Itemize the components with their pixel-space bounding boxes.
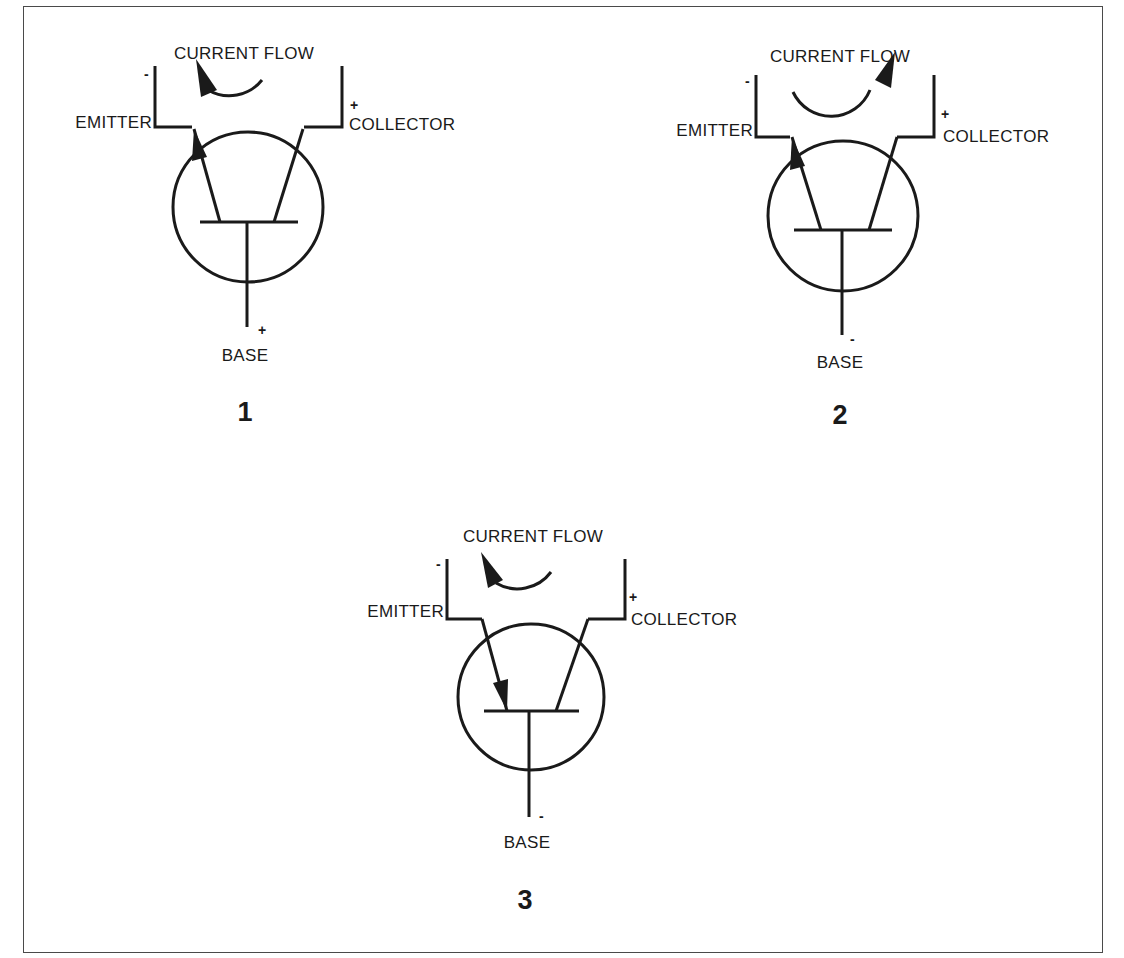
emitter-lead bbox=[756, 75, 790, 137]
base-polarity: - bbox=[850, 331, 855, 347]
collector-label: COLLECTOR bbox=[943, 127, 1049, 146]
collector-lead bbox=[304, 66, 342, 127]
emitter-label: EMITTER bbox=[676, 121, 753, 140]
base-polarity: + bbox=[258, 322, 266, 338]
base-label: BASE bbox=[222, 346, 269, 365]
transistor-3: CURRENT FLOW EMITTER - COLLECTOR + - BAS… bbox=[367, 527, 737, 915]
current-flow-arc bbox=[793, 90, 870, 116]
collector-polarity: + bbox=[350, 97, 358, 113]
transistor-body-circle bbox=[458, 624, 604, 770]
current-flow-label: CURRENT FLOW bbox=[463, 527, 603, 546]
emitter-polarity: - bbox=[144, 66, 149, 82]
emitter-arrow-icon bbox=[493, 679, 508, 711]
collector-label: COLLECTOR bbox=[349, 115, 455, 134]
collector-polarity: + bbox=[941, 106, 949, 122]
collector-label: COLLECTOR bbox=[631, 610, 737, 629]
emitter-label: EMITTER bbox=[367, 602, 444, 621]
figure-number-2: 2 bbox=[832, 400, 847, 430]
emitter-polarity: - bbox=[745, 73, 750, 89]
transistor-diagram: CURRENT FLOW EMITTER - COLLECTOR + + BAS… bbox=[0, 0, 1124, 958]
current-flow-arc bbox=[208, 80, 262, 96]
base-polarity: - bbox=[539, 808, 544, 824]
transistor-2: CURRENT FLOW EMITTER - COLLECTOR + - BAS… bbox=[676, 47, 1049, 430]
emitter-polarity: - bbox=[436, 556, 441, 572]
current-flow-arc bbox=[496, 572, 551, 589]
current-flow-arrowhead-icon bbox=[481, 552, 503, 588]
emitter-lead bbox=[155, 66, 192, 127]
base-label: BASE bbox=[504, 833, 551, 852]
current-flow-label: CURRENT FLOW bbox=[174, 44, 314, 63]
transistor-1: CURRENT FLOW EMITTER - COLLECTOR + + BAS… bbox=[75, 44, 455, 427]
figure-number-3: 3 bbox=[517, 885, 532, 915]
emitter-lead bbox=[447, 559, 482, 619]
collector-line bbox=[556, 619, 588, 711]
emitter-label: EMITTER bbox=[75, 113, 152, 132]
base-label: BASE bbox=[817, 353, 864, 372]
collector-lead bbox=[897, 75, 934, 137]
collector-polarity: + bbox=[629, 589, 637, 605]
collector-lead bbox=[588, 559, 625, 619]
current-flow-arrowhead-icon bbox=[196, 59, 217, 97]
figure-number-1: 1 bbox=[237, 397, 252, 427]
